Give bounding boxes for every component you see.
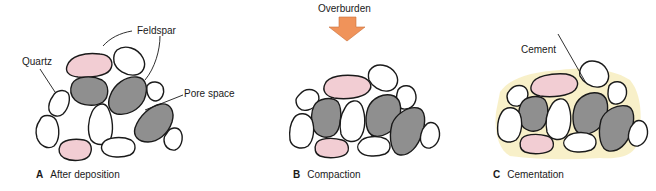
diagram-canvas <box>0 0 656 191</box>
label-overburden: Overburden <box>318 3 371 14</box>
label-feldspar: Feldspar <box>137 25 176 36</box>
quartz-grain <box>358 137 390 156</box>
quartz-leader-line <box>40 69 55 92</box>
caption-text-b: Compaction <box>307 169 360 180</box>
quartz-grain <box>340 101 365 142</box>
caption-text-c: Cementation <box>507 169 564 180</box>
panel-letter-a: A <box>36 169 43 180</box>
caption-panel-a: AAfter deposition <box>36 169 120 180</box>
caption-text-a: After deposition <box>50 169 120 180</box>
panel-letter-b: B <box>293 169 300 180</box>
quartz-grain <box>36 116 59 148</box>
feldspar-leader-line-1 <box>103 31 132 46</box>
feldspar-grain <box>520 134 553 153</box>
feldspar-grain <box>315 138 348 157</box>
label-quartz: Quartz <box>22 56 52 67</box>
quartz-grain <box>147 82 164 101</box>
dark-grain <box>519 97 548 132</box>
overburden-arrow-icon <box>329 17 365 41</box>
quartz-grain <box>290 114 314 148</box>
quartz-grain <box>102 138 135 157</box>
panel-letter-c: C <box>493 169 500 180</box>
dark-grain <box>312 99 341 138</box>
caption-panel-c: CCementation <box>493 169 564 180</box>
quartz-grain <box>564 133 596 152</box>
caption-panel-b: BCompaction <box>293 169 361 180</box>
dark-grain <box>71 77 108 105</box>
feldspar-grain <box>66 54 111 78</box>
quartz-grain <box>114 47 145 75</box>
feldspar-leader-line-2 <box>145 36 160 80</box>
quartz-grain <box>498 108 522 142</box>
label-pore-space: Pore space <box>184 88 235 99</box>
quartz-grain <box>368 65 397 91</box>
feldspar-grain <box>59 139 91 160</box>
quartz-grain <box>49 91 70 116</box>
panel-b-grains <box>290 65 440 158</box>
feldspar-grain <box>324 75 371 98</box>
dark-grain <box>109 77 147 114</box>
quartz-grain <box>608 82 627 104</box>
label-cement: Cement <box>521 44 556 55</box>
